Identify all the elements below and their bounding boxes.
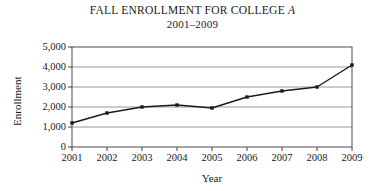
data-point-marker — [315, 85, 318, 88]
data-point-marker — [245, 95, 248, 98]
enrollment-markers — [70, 63, 353, 124]
enrollment-line — [72, 65, 352, 123]
data-point-marker — [175, 103, 178, 106]
grid-lines — [72, 67, 352, 127]
data-point-marker — [350, 63, 353, 66]
data-point-marker — [280, 89, 283, 92]
plot-area — [0, 0, 385, 191]
y-axis-ticks — [68, 47, 72, 147]
data-point-marker — [70, 121, 73, 124]
data-point-marker — [210, 106, 213, 109]
data-point-marker — [140, 105, 143, 108]
plot-frame — [72, 47, 352, 147]
x-axis-ticks — [72, 147, 352, 151]
data-point-marker — [105, 111, 108, 114]
plot-border — [72, 47, 352, 147]
chart-figure: FALL ENROLLMENT FOR COLLEGE A 2001–2009 … — [0, 0, 385, 191]
